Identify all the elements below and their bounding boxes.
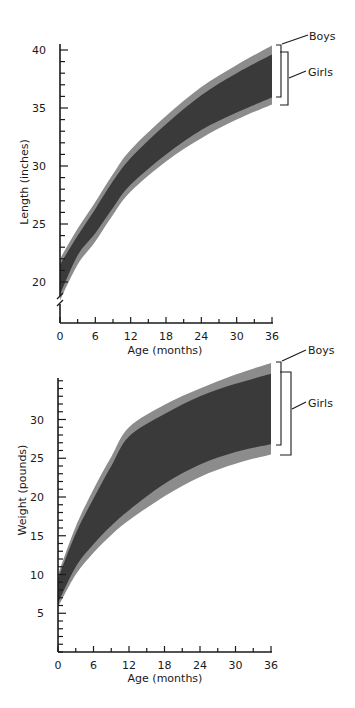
x-tick-label: 30 (230, 330, 244, 343)
band-overlap (60, 55, 272, 295)
y-tick-label: 10 (30, 569, 44, 582)
length-boys-leader (282, 35, 308, 44)
length-legend-girls: Girls (308, 66, 333, 79)
x-tick-label: 36 (264, 659, 278, 672)
x-tick-label: 6 (92, 330, 99, 343)
weight-girls-leader (292, 402, 306, 409)
y-tick-label: 35 (32, 102, 46, 115)
y-tick-label: 20 (30, 491, 44, 504)
y-tick-label: 30 (30, 414, 44, 427)
weight-bands (58, 363, 271, 607)
x-tick-label: 0 (57, 330, 64, 343)
weight-chart: 51015202530061218243036 Weight (pounds) … (16, 344, 335, 685)
x-tick-label: 24 (194, 330, 208, 343)
length-legend: Boys Girls (276, 30, 336, 105)
y-tick-label: 15 (30, 530, 44, 543)
weight-legend: Boys Girls (276, 344, 335, 455)
x-tick-label: 12 (122, 659, 136, 672)
y-tick-label: 20 (32, 276, 46, 289)
length-x-axis-title: Age (months) (128, 344, 203, 357)
weight-boys-leader (282, 350, 306, 361)
weight-legend-girls: Girls (308, 397, 333, 410)
growth-charts: 2025303540061218243036 Length (inches) A… (0, 0, 355, 708)
length-girls-leader (289, 71, 306, 78)
length-legend-boys: Boys (309, 30, 336, 43)
length-y-axis-title: Length (inches) (18, 139, 31, 225)
y-tick-label: 25 (32, 218, 46, 231)
weight-y-axis-title: Weight (pounds) (16, 445, 29, 536)
x-tick-label: 24 (193, 659, 207, 672)
length-bands (60, 45, 272, 300)
y-tick-label: 30 (32, 160, 46, 173)
length-boys-bracket (276, 45, 281, 97)
x-tick-label: 18 (159, 330, 173, 343)
weight-legend-boys: Boys (308, 344, 335, 357)
length-chart: 2025303540061218243036 Length (inches) A… (18, 30, 336, 357)
x-tick-label: 18 (158, 659, 172, 672)
y-tick-label: 40 (32, 44, 46, 57)
x-tick-label: 12 (124, 330, 138, 343)
weight-boys-bracket (276, 362, 281, 445)
weight-girls-bracket (280, 372, 291, 455)
y-tick-label: 5 (37, 607, 44, 620)
x-tick-label: 30 (229, 659, 243, 672)
y-tick-label: 25 (30, 452, 44, 465)
x-tick-label: 36 (265, 330, 279, 343)
weight-x-axis-title: Age (months) (128, 672, 203, 685)
x-tick-label: 6 (90, 659, 97, 672)
x-tick-label: 0 (55, 659, 62, 672)
